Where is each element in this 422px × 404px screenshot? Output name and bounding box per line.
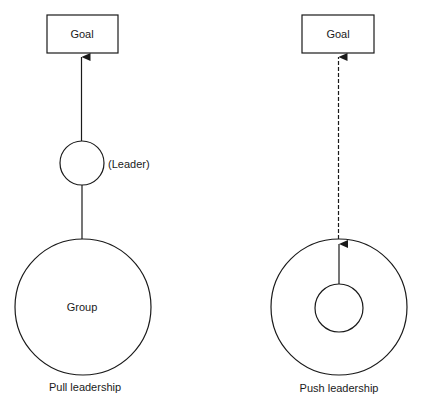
push-leadership-diagram [271, 15, 407, 375]
pull-group-label: Group [67, 301, 98, 313]
push-goal-label: Goal [326, 28, 349, 40]
push-inner-leader-circle [315, 284, 363, 332]
pull-leadership-diagram [15, 15, 151, 375]
pull-leader-circle [60, 141, 104, 185]
push-caption: Push leadership [300, 382, 379, 394]
leadership-diagram [0, 0, 422, 404]
pull-caption: Pull leadership [49, 381, 121, 393]
pull-goal-label: Goal [70, 28, 93, 40]
pull-leader-label: (Leader) [108, 158, 150, 170]
